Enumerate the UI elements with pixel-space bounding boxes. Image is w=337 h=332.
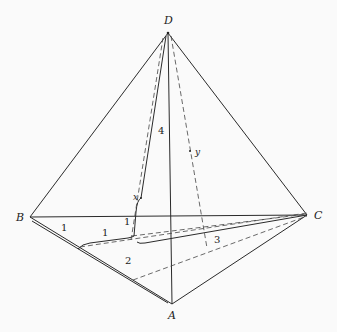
vertex-D-dot <box>167 32 170 35</box>
edge-DB <box>30 33 168 217</box>
edge-BC <box>30 215 307 217</box>
label-B: B <box>15 211 24 224</box>
edge-BA <box>30 217 172 304</box>
point-x-dot <box>140 197 142 199</box>
label-y: y <box>194 147 201 157</box>
label-4: 4 <box>158 125 164 136</box>
tetrahedron-diagram: D B C A 1 1 1 2 3 4 x y <box>0 0 337 332</box>
edge-DA <box>168 33 172 304</box>
label-x: x <box>133 192 138 202</box>
label-3: 3 <box>214 234 220 245</box>
path-to-D <box>134 36 166 236</box>
label-1-base: 1 <box>102 227 108 238</box>
dashed-segment-2 <box>133 216 307 280</box>
label-2: 2 <box>125 255 131 266</box>
label-C: C <box>314 209 323 222</box>
label-1-BA: 1 <box>61 222 67 233</box>
edge-DC <box>168 33 307 215</box>
label-1-short: 1 <box>124 216 130 227</box>
point-y-dot <box>189 150 191 152</box>
path-to-C-solid <box>137 215 307 243</box>
label-A: A <box>167 309 176 322</box>
edge-BA-path <box>32 221 168 303</box>
dashed-base-1 <box>80 213 307 247</box>
label-D: D <box>163 14 173 27</box>
